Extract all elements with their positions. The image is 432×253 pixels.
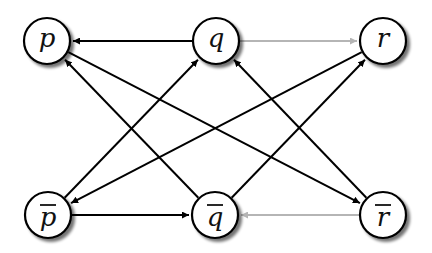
- edge-qbar-to-r: [232, 60, 365, 198]
- edges-layer: [65, 41, 367, 215]
- node-pbar: p: [25, 192, 71, 238]
- node-qbar: q: [192, 192, 238, 238]
- node-q: q: [193, 18, 239, 64]
- node-label: p: [39, 23, 56, 53]
- implication-graph: pqrpqr: [0, 0, 432, 253]
- node-label: q: [207, 202, 224, 232]
- node-label: q: [208, 23, 225, 53]
- node-label: p: [40, 202, 57, 232]
- node-r: r: [360, 18, 406, 64]
- node-label: r: [377, 23, 391, 53]
- node-p: p: [24, 18, 70, 64]
- node-label: r: [377, 202, 391, 232]
- edge-rbar-to-q: [234, 60, 366, 198]
- node-rbar: r: [360, 192, 406, 238]
